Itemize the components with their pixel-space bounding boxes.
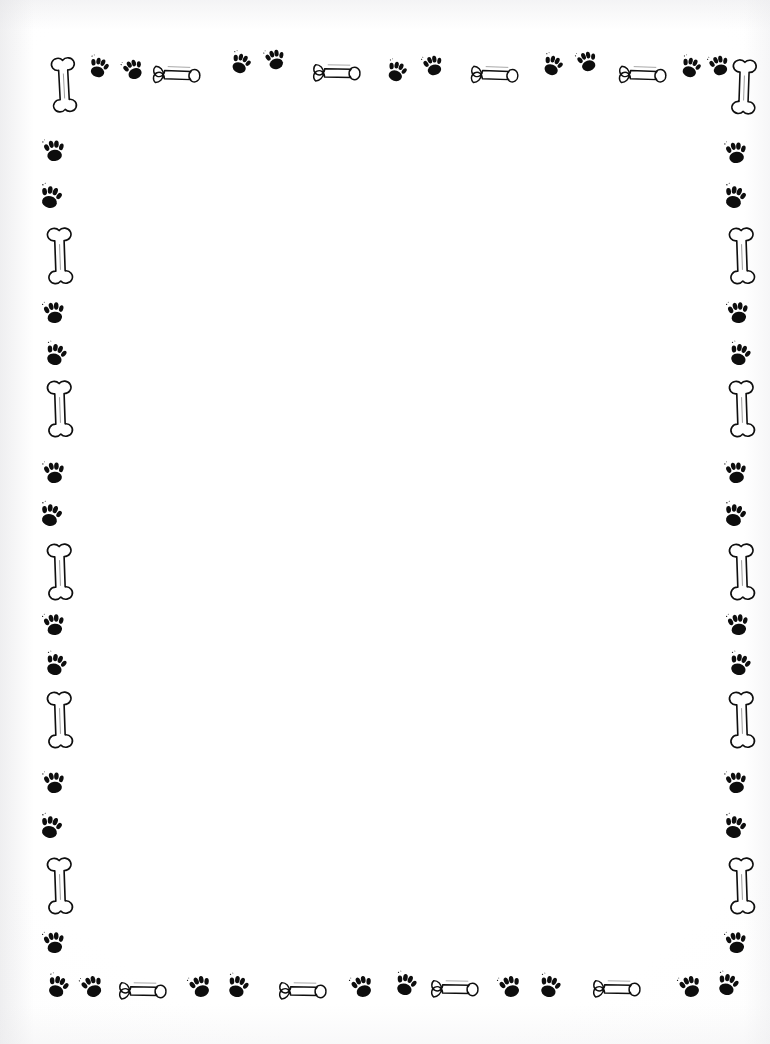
bone-horizontal-icon: [112, 965, 179, 1000]
bone-vertical-icon: [721, 374, 763, 445]
paw-print-icon: [533, 969, 567, 1003]
paw-print-icon: [720, 926, 751, 957]
paw-print-icon: [183, 968, 218, 1002]
scan-shading-right: [744, 0, 770, 1044]
paw-print-icon: [33, 497, 69, 531]
bone-vertical-icon: [39, 221, 81, 292]
paw-print-icon: [389, 967, 423, 1001]
paw-print-icon: [33, 179, 69, 213]
paw-print-icon: [39, 337, 73, 371]
paw-print-icon: [83, 51, 115, 82]
bone-vertical-icon: [721, 221, 763, 292]
paw-print-icon: [675, 51, 707, 83]
bone-horizontal-icon: [611, 49, 678, 85]
paw-print-icon: [38, 296, 69, 327]
paw-print-icon: [39, 647, 73, 681]
paw-print-icon: [417, 49, 449, 80]
paw-print-icon: [74, 968, 110, 1003]
paw-print-icon: [722, 608, 753, 639]
bone-vertical-icon: [39, 374, 81, 445]
scan-shading-top: [0, 0, 770, 30]
bone-horizontal-icon: [272, 965, 339, 1000]
paw-print-icon: [721, 767, 752, 797]
bone-vertical-icon: [723, 53, 765, 122]
paw-print-icon: [221, 969, 255, 1003]
paw-print-icon: [39, 135, 70, 165]
paw-print-icon: [33, 809, 69, 843]
bone-horizontal-icon: [306, 47, 373, 82]
bone-vertical-icon: [721, 537, 763, 608]
paw-print-icon: [571, 45, 603, 77]
bone-horizontal-icon: [586, 963, 653, 998]
paw-print-icon: [537, 48, 570, 80]
scan-shading-bottom: [0, 1004, 770, 1044]
bone-vertical-icon: [721, 851, 763, 922]
stationery-page: [0, 0, 770, 1044]
writing-area[interactable]: [96, 118, 674, 948]
bone-horizontal-icon: [145, 49, 212, 85]
paw-print-icon: [711, 967, 745, 1001]
bone-horizontal-icon: [463, 49, 530, 85]
paw-print-icon: [493, 968, 528, 1002]
paw-print-icon: [381, 55, 413, 87]
paw-print-icon: [673, 968, 708, 1002]
paw-print-icon: [39, 767, 70, 797]
bone-vertical-icon: [39, 685, 81, 756]
paw-print-icon: [717, 179, 753, 213]
paw-print-icon: [717, 497, 753, 531]
paw-print-icon: [703, 49, 735, 80]
paw-print-icon: [717, 809, 753, 843]
paw-print-icon: [38, 926, 69, 957]
paw-print-icon: [721, 137, 752, 167]
paw-print-icon: [38, 608, 69, 639]
paw-print-icon: [723, 337, 757, 371]
bone-vertical-icon: [39, 537, 81, 608]
bone-vertical-icon: [39, 851, 81, 922]
paw-print-icon: [722, 296, 753, 327]
paw-print-icon: [39, 457, 70, 487]
bone-horizontal-icon: [424, 963, 491, 998]
paw-print-icon: [116, 52, 149, 85]
paw-print-icon: [721, 457, 752, 487]
bone-vertical-icon: [42, 51, 86, 121]
paw-print-icon: [41, 968, 76, 1002]
paw-print-icon: [259, 43, 290, 74]
paw-print-icon: [225, 46, 258, 78]
paw-print-icon: [345, 968, 380, 1002]
paw-print-icon: [723, 647, 757, 681]
scan-shading-left: [0, 0, 34, 1044]
bone-vertical-icon: [721, 685, 763, 756]
